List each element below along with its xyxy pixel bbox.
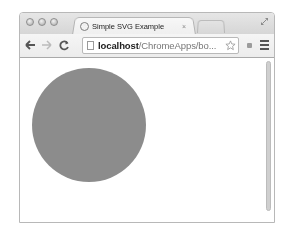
zoom-window-button[interactable] [50, 18, 58, 26]
svg-canvas [20, 58, 260, 223]
gray-circle [32, 68, 146, 182]
url-host: localhost [98, 40, 139, 51]
forward-arrow-icon [41, 40, 52, 50]
url-text[interactable]: localhost/ChromeApps/bo... [98, 40, 225, 51]
minimize-window-button[interactable] [38, 18, 46, 26]
page-content [20, 58, 274, 223]
new-tab-button[interactable] [197, 20, 225, 33]
extension-icon[interactable] [247, 43, 252, 48]
page-icon [87, 41, 94, 50]
back-button[interactable] [24, 39, 36, 51]
reload-icon [59, 40, 70, 51]
reload-button[interactable] [58, 39, 70, 51]
tab-strip: Simple SVG Example × [20, 13, 274, 34]
browser-toolbar: localhost/ChromeApps/bo... [20, 34, 274, 58]
menu-bar-line [260, 44, 269, 46]
address-bar[interactable]: localhost/ChromeApps/bo... [82, 37, 239, 54]
chrome-menu-button[interactable] [260, 40, 269, 50]
forward-button[interactable] [40, 39, 52, 51]
close-window-button[interactable] [26, 18, 34, 26]
tab-content: Simple SVG Example × [76, 18, 192, 34]
menu-bar-line [260, 48, 269, 50]
browser-window: Simple SVG Example × [19, 12, 275, 223]
url-path: /ChromeApps/bo... [139, 40, 217, 51]
loading-spinner-icon [80, 22, 89, 31]
menu-bar-line [260, 40, 269, 42]
vertical-scrollbar[interactable] [266, 61, 271, 211]
tab-title: Simple SVG Example [92, 22, 182, 31]
bookmark-star-icon[interactable] [225, 40, 236, 51]
fullscreen-icon[interactable] [260, 17, 269, 26]
back-arrow-icon [25, 40, 36, 50]
tab-close-button[interactable]: × [182, 23, 186, 30]
